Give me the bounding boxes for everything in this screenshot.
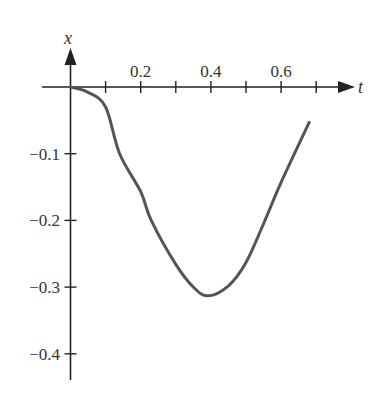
x-axis-arrow-icon xyxy=(338,81,355,93)
x-tick-label: 0.2 xyxy=(130,62,151,81)
ticks xyxy=(65,81,317,354)
x-tick-label: 0.6 xyxy=(270,62,291,81)
y-tick-label: −0.1 xyxy=(29,145,60,164)
x-axis-label: t xyxy=(358,77,364,97)
x-tick-label: 0.4 xyxy=(200,62,222,81)
y-tick-label: −0.3 xyxy=(29,278,60,297)
y-tick-label: −0.2 xyxy=(29,211,60,230)
y-axis-arrow-icon xyxy=(65,48,77,65)
y-tick-label: −0.4 xyxy=(29,345,60,364)
tick-labels: 0.20.40.6−0.1−0.2−0.3−0.4 xyxy=(29,62,292,364)
y-axis-label: x xyxy=(63,28,72,48)
data-curve xyxy=(71,87,310,296)
axes xyxy=(42,48,355,380)
chart: 0.20.40.6−0.1−0.2−0.3−0.4 x t xyxy=(0,0,370,400)
